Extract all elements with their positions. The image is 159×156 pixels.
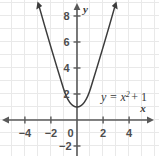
x-tick-label--4: −4 xyxy=(19,127,32,139)
x-tick-label--2: −2 xyxy=(45,127,58,139)
equation-base: y = x xyxy=(100,90,126,104)
equation-annotation: y = x2+ 1 xyxy=(100,90,147,104)
y-axis-label: y xyxy=(81,3,88,15)
equation-exponent: 2 xyxy=(126,90,130,99)
y-tick-label-8: 8 xyxy=(63,10,69,22)
y-tick-label-2: 2 xyxy=(63,88,69,100)
x-tick-label-4: 4 xyxy=(126,127,133,139)
x-tick-label-0: 0 xyxy=(67,127,73,139)
y-tick-label-6: 6 xyxy=(63,36,69,48)
x-tick-label-2: 2 xyxy=(100,127,106,139)
equation-tail: + 1 xyxy=(131,90,147,104)
coordinate-graph-figure: −4 −2 0 2 4 2 4 6 8 −2 y x y = x2+ 1 xyxy=(0,0,159,156)
y-tick-label--2: −2 xyxy=(59,140,72,152)
y-tick-label-4: 4 xyxy=(63,62,70,74)
graph-canvas: −4 −2 0 2 4 2 4 6 8 −2 y x y = x2+ 1 xyxy=(0,0,159,156)
